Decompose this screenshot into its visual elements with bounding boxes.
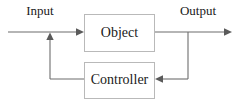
object-block-label: Object: [101, 25, 138, 40]
output-arrowhead-icon: [224, 28, 232, 36]
summing-junction-arrowhead-icon: [46, 33, 53, 41]
controller-input-arrowhead-icon: [155, 75, 163, 83]
block-diagram-canvas: Object Controller Input Output: [0, 0, 239, 107]
input-signal-label: Input: [26, 3, 54, 18]
controller-block-label: Controller: [91, 72, 149, 87]
output-signal-label: Output: [180, 3, 217, 18]
block-diagram-svg: Object Controller Input Output: [0, 0, 239, 107]
input-arrowhead-icon: [76, 28, 84, 36]
